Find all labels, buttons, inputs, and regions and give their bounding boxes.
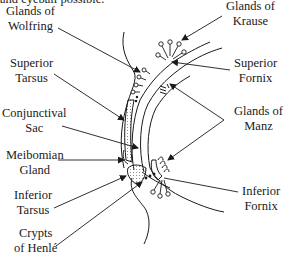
conjunctiva-diagram: and eyeball possible. Glands of Wolfring… [0,0,284,256]
arrow-inferior-tarsus [54,176,126,208]
line-inferior-fornix [164,178,238,192]
arrow-glands-of-krause [182,16,222,40]
globe-surface [148,76,190,168]
upper-small-glands [135,96,138,102]
arrow-glands-of-manz-upper [170,84,224,120]
arrow-glands-of-wolfring [58,28,140,72]
diagram-drawing [0,0,284,256]
palpebral-conjunctiva [132,42,210,170]
arrow-glands-of-manz-lower [168,120,224,160]
inferior-tarsus-plate [127,165,146,184]
arrow-superior-tarsus [54,74,124,120]
anatomy-lines [121,32,224,244]
leader-lines [54,16,238,246]
glands-of-manz-lower [151,157,169,180]
arrow-crypts-of-henle [56,182,142,246]
